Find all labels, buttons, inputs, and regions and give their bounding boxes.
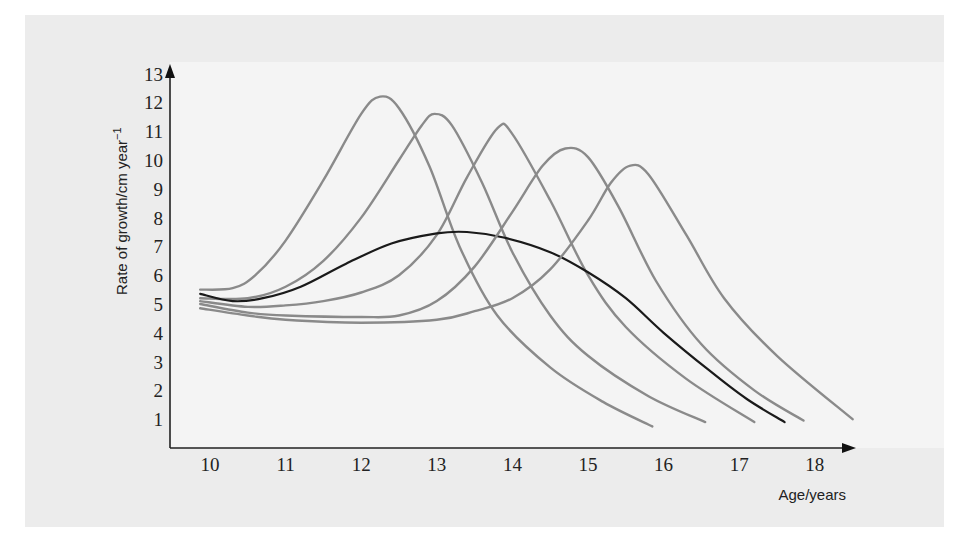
x-tick-label: 18 xyxy=(805,454,824,475)
curve-average xyxy=(200,232,784,422)
y-tick-label: 10 xyxy=(144,150,163,171)
y-tick-label: 12 xyxy=(144,92,163,113)
y-axis-tick-labels: 12345678910111213 xyxy=(144,64,164,431)
y-tick-label: 13 xyxy=(144,64,163,85)
x-axis-title: Age/years xyxy=(778,486,846,503)
caption-strip xyxy=(0,540,967,559)
x-axis-tick-labels: 101112131415161718 xyxy=(201,454,825,475)
y-tick-label: 11 xyxy=(145,121,163,142)
x-axis-arrow-icon xyxy=(842,443,856,453)
y-tick-label: 8 xyxy=(154,208,164,229)
y-tick-label: 1 xyxy=(154,409,164,430)
x-tick-label: 13 xyxy=(427,454,446,475)
curve-individual-1 xyxy=(200,96,652,426)
x-tick-label: 12 xyxy=(352,454,371,475)
y-tick-label: 7 xyxy=(154,236,164,257)
growth-rate-chart: 12345678910111213 101112131415161718 Rat… xyxy=(0,0,967,559)
y-tick-label: 2 xyxy=(154,380,164,401)
x-tick-label: 16 xyxy=(654,454,673,475)
x-tick-label: 10 xyxy=(201,454,220,475)
y-tick-label: 6 xyxy=(154,265,164,286)
x-tick-label: 11 xyxy=(276,454,294,475)
x-tick-label: 14 xyxy=(503,454,523,475)
curve-individual-3 xyxy=(200,124,754,422)
x-tick-label: 17 xyxy=(730,454,749,475)
curve-individual-5 xyxy=(200,165,852,419)
chart-series xyxy=(200,96,852,426)
y-axis-arrow-icon xyxy=(165,64,175,78)
y-tick-label: 5 xyxy=(154,294,164,315)
curve-individual-2 xyxy=(200,114,705,422)
y-tick-label: 9 xyxy=(154,179,164,200)
y-tick-label: 4 xyxy=(154,323,164,344)
x-tick-label: 15 xyxy=(579,454,598,475)
y-tick-label: 3 xyxy=(154,352,164,373)
y-axis-title: Rate of growth/cm year−1 xyxy=(111,127,130,295)
